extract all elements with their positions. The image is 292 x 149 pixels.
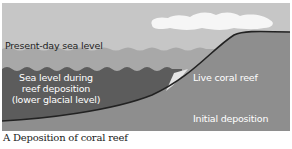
figure-caption: A Deposition of coral reef bbox=[3, 132, 128, 143]
diagram-graphic bbox=[2, 3, 290, 131]
initial-deposition-label: Initial deposition bbox=[193, 113, 268, 124]
glacial-sea-level-label-line1: Sea level during bbox=[10, 72, 102, 83]
glacial-sea-level-label-line3: (lower glacial level) bbox=[10, 94, 102, 105]
present-sea-level-label: Present-day sea level bbox=[5, 40, 103, 51]
glacial-sea-level-label-line2: reef deposition bbox=[10, 83, 102, 94]
reef-deposition-diagram: Present-day sea level Sea level during r… bbox=[2, 3, 290, 131]
coral-reef-figure: Present-day sea level Sea level during r… bbox=[0, 0, 292, 149]
glacial-sea-level-label: Sea level during reef deposition (lower … bbox=[10, 72, 102, 105]
live-coral-reef-label: Live coral reef bbox=[193, 72, 258, 83]
